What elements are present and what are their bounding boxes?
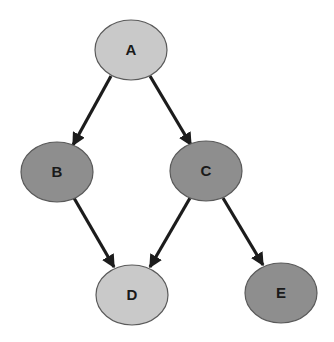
node-label: D [127, 286, 138, 303]
directed-graph-diagram: ABCDE [0, 0, 334, 342]
node-d: D [96, 265, 168, 325]
nodes-group: ABCDE [21, 20, 317, 325]
node-label: E [276, 284, 286, 301]
node-c: C [170, 141, 242, 201]
node-label: C [201, 162, 212, 179]
node-label: A [126, 41, 137, 58]
edge-b-to-d [74, 198, 114, 267]
node-label: B [52, 163, 63, 180]
node-e: E [245, 263, 317, 323]
node-b: B [21, 142, 93, 202]
edge-a-to-c [150, 76, 191, 145]
node-a: A [95, 20, 167, 80]
edge-a-to-b [73, 76, 111, 145]
edge-c-to-d [150, 198, 190, 267]
edge-c-to-e [223, 198, 263, 265]
